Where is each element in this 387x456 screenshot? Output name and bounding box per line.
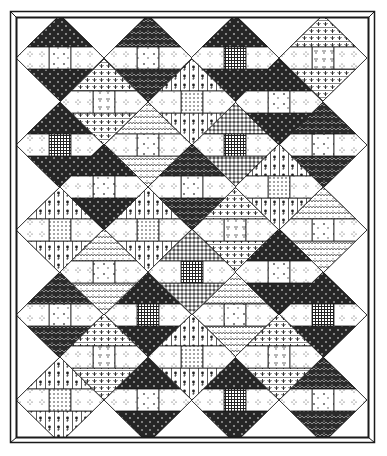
spool-center xyxy=(268,346,290,368)
spool-center xyxy=(224,134,246,156)
spool-center xyxy=(93,91,115,113)
spool-center xyxy=(49,304,71,326)
spool-center xyxy=(312,304,334,326)
spool-center xyxy=(312,389,334,411)
quilt-illustration xyxy=(0,0,387,456)
spool-center xyxy=(268,176,290,198)
spool-center xyxy=(312,134,334,156)
spool-center xyxy=(312,219,334,241)
spool-center xyxy=(181,261,203,283)
spool-center xyxy=(268,91,290,113)
spool-center xyxy=(181,346,203,368)
spool-center xyxy=(93,346,115,368)
spool-center xyxy=(224,47,246,69)
spool-center xyxy=(137,47,159,69)
spool-center xyxy=(49,134,71,156)
quilt-blocks xyxy=(16,15,367,443)
spool-center xyxy=(49,389,71,411)
spool-center xyxy=(93,261,115,283)
spool-center xyxy=(312,47,334,69)
spool-center xyxy=(224,219,246,241)
spool-center xyxy=(224,304,246,326)
spool-center xyxy=(49,47,71,69)
spool-center xyxy=(268,261,290,283)
spool-center xyxy=(181,91,203,113)
spool-center xyxy=(137,219,159,241)
quilt-svg xyxy=(0,0,387,456)
spool-center xyxy=(93,176,115,198)
spool-center xyxy=(224,389,246,411)
spool-center xyxy=(137,389,159,411)
spool-center xyxy=(137,304,159,326)
spool-center xyxy=(181,176,203,198)
spool-center xyxy=(49,219,71,241)
spool-center xyxy=(137,134,159,156)
